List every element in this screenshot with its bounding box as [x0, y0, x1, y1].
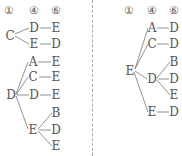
- left-root-c: C: [5, 30, 14, 42]
- leaf: D: [51, 124, 61, 136]
- tree-diagram: ① ④ ⑥ C D E E D D A E C E D E E B D E ① …: [0, 0, 182, 156]
- leaf: D: [169, 38, 179, 50]
- node: A: [148, 22, 157, 34]
- left-header-1: ①: [4, 5, 14, 17]
- leaf: B: [170, 56, 179, 68]
- leaf: E: [52, 22, 61, 34]
- node: D: [29, 89, 39, 101]
- leaf: E: [52, 56, 61, 68]
- dashed-divider: [92, 0, 93, 156]
- right-header-6: ⑥: [169, 5, 179, 17]
- node: D: [29, 22, 39, 34]
- node: E: [29, 124, 38, 136]
- leaf: E: [170, 89, 179, 101]
- node: D: [147, 73, 157, 85]
- leaf: D: [169, 22, 179, 34]
- node: E: [148, 106, 157, 118]
- right-header-4: ④: [147, 5, 157, 17]
- left-root-d: D: [6, 89, 16, 101]
- leaf: E: [52, 140, 61, 152]
- left-header-4: ④: [29, 5, 39, 17]
- leaf: B: [52, 107, 61, 119]
- leaf: E: [52, 71, 61, 83]
- leaf: E: [52, 89, 61, 101]
- leaf: D: [51, 38, 61, 50]
- node: C: [147, 38, 156, 50]
- left-header-6: ⑥: [51, 5, 61, 17]
- right-header-1: ①: [124, 5, 134, 17]
- node: E: [30, 38, 39, 50]
- right-root-e: E: [126, 65, 135, 77]
- node: A: [29, 56, 38, 68]
- leaf: D: [169, 73, 179, 85]
- node: C: [28, 71, 37, 83]
- leaf: D: [169, 106, 179, 118]
